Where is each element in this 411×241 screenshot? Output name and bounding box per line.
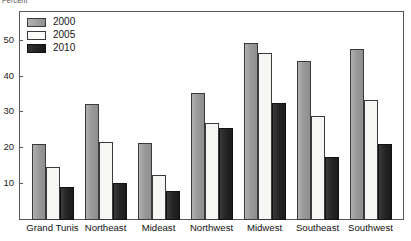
y-axis-tick-label: 20 xyxy=(3,143,14,153)
y-axis-tick-label: 10 xyxy=(3,178,14,188)
x-axis-category-label: Northeast xyxy=(79,222,132,233)
bar-2000[interactable] xyxy=(85,104,99,220)
x-axis-category-label: Grand Tunis xyxy=(26,222,79,233)
bar-2010[interactable] xyxy=(60,187,74,220)
bar-2000[interactable] xyxy=(297,61,311,220)
bar-2005[interactable] xyxy=(311,116,325,220)
bar-2000[interactable] xyxy=(138,143,152,220)
bar-group xyxy=(132,12,185,220)
bar-group xyxy=(238,12,291,220)
bar-group xyxy=(185,12,238,220)
legend-label: 2010 xyxy=(53,43,75,53)
y-axis-tick-mark xyxy=(19,40,23,41)
bar-2010[interactable] xyxy=(219,128,233,220)
y-axis-tick-label: 40 xyxy=(3,71,14,81)
bar-2010[interactable] xyxy=(272,103,286,220)
legend-label: 2005 xyxy=(53,30,75,40)
bar-2005[interactable] xyxy=(258,53,272,220)
legend-swatch-icon xyxy=(27,18,46,27)
bar-2000[interactable] xyxy=(32,144,46,220)
legend-swatch-icon xyxy=(27,44,46,53)
y-axis-tick-mark xyxy=(19,147,23,148)
bar-2000[interactable] xyxy=(191,93,205,220)
bar-2010[interactable] xyxy=(166,191,180,220)
axis-unit-caption: Percent xyxy=(2,0,28,4)
bar-2000[interactable] xyxy=(244,43,258,220)
bar-group xyxy=(344,12,397,220)
bar-2005[interactable] xyxy=(364,100,378,220)
legend-item-2005[interactable]: 2005 xyxy=(27,30,75,40)
plot-area xyxy=(20,12,403,220)
y-axis-tick-label: 30 xyxy=(3,107,14,117)
x-axis-labels: Grand TunisNortheastMideastNorthwestMidw… xyxy=(20,222,403,233)
bar-2005[interactable] xyxy=(205,123,219,220)
legend-item-2000[interactable]: 2000 xyxy=(27,17,75,27)
legend-swatch-icon xyxy=(27,31,46,40)
bar-2005[interactable] xyxy=(46,167,60,220)
legend-label: 2000 xyxy=(53,17,75,27)
chart-legend: 200020052010 xyxy=(27,17,75,53)
bar-groups xyxy=(20,12,403,220)
y-axis-tick-label: 50 xyxy=(3,35,14,45)
bar-2010[interactable] xyxy=(378,144,392,220)
bar-2005[interactable] xyxy=(152,175,166,220)
chart-container: Percent 1020304050 200020052010 Grand Tu… xyxy=(0,0,411,241)
bar-2010[interactable] xyxy=(325,157,339,220)
x-axis-category-label: Mideast xyxy=(132,222,185,233)
bar-group xyxy=(291,12,344,220)
x-axis-category-label: Southeast xyxy=(291,222,344,233)
y-axis-tick-mark xyxy=(19,183,23,184)
y-axis: 1020304050 xyxy=(0,11,19,220)
x-axis-category-label: Southwest xyxy=(344,222,397,233)
x-axis-category-label: Northwest xyxy=(185,222,238,233)
x-axis-category-label: Midwest xyxy=(238,222,291,233)
bar-2000[interactable] xyxy=(350,49,364,220)
bar-2010[interactable] xyxy=(113,183,127,220)
y-axis-tick-mark xyxy=(19,111,23,112)
y-axis-tick-mark xyxy=(19,76,23,77)
legend-item-2010[interactable]: 2010 xyxy=(27,43,75,53)
bar-group xyxy=(79,12,132,220)
bar-2005[interactable] xyxy=(99,142,113,220)
